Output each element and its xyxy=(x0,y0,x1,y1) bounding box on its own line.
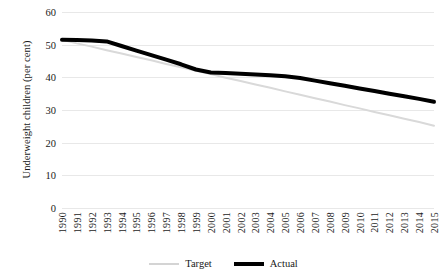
x-axis-tick-label: 1993 xyxy=(102,212,113,233)
legend-swatch-target-icon xyxy=(149,263,179,265)
x-axis-tick-label: 2004 xyxy=(265,212,276,233)
x-axis-tick-label: 1991 xyxy=(72,212,83,233)
x-axis-tick-label: 2000 xyxy=(206,212,217,233)
y-axis-tick-label: 50 xyxy=(26,39,56,50)
x-axis-tick-label: 1994 xyxy=(117,212,128,233)
x-axis-tick-label: 2002 xyxy=(236,212,247,233)
x-axis-tick-label: 2008 xyxy=(325,212,336,233)
x-axis-tick-label: 2001 xyxy=(221,212,232,233)
legend-label-actual: Actual xyxy=(270,258,298,269)
series-line-actual xyxy=(62,40,434,102)
legend-swatch-actual-icon xyxy=(234,262,264,266)
y-axis-tick-label: 30 xyxy=(26,105,56,116)
x-axis-tick-label: 1999 xyxy=(191,212,202,233)
x-axis-tick-label: 2007 xyxy=(310,212,321,233)
y-axis-tick-label: 40 xyxy=(26,72,56,83)
series-line-target xyxy=(62,40,434,126)
x-axis-tick-label: 2013 xyxy=(399,212,410,233)
x-axis-tick-label: 1995 xyxy=(131,212,142,233)
gridline xyxy=(62,208,434,209)
y-axis-tick-labels: 0102030405060 xyxy=(26,12,56,208)
legend-label-target: Target xyxy=(185,258,211,269)
x-axis-tick-label: 2014 xyxy=(414,212,425,233)
x-axis-tick-label: 2006 xyxy=(295,212,306,233)
x-axis-tick-label: 2009 xyxy=(340,212,351,233)
y-axis-tick-label: 60 xyxy=(26,7,56,18)
x-axis-tick-label: 2011 xyxy=(369,212,380,233)
x-axis-tick-label: 2003 xyxy=(250,212,261,233)
y-axis-tick-label: 10 xyxy=(26,170,56,181)
y-axis-tick-label: 20 xyxy=(26,137,56,148)
chart-container: Underweight children (per cent) 01020304… xyxy=(0,0,447,279)
x-axis-tick-label: 1998 xyxy=(176,212,187,233)
x-axis-tick-label: 2015 xyxy=(429,212,440,233)
x-axis-tick-label: 2010 xyxy=(355,212,366,233)
legend-entry-target: Target xyxy=(149,258,211,269)
x-axis-tick-label: 2005 xyxy=(280,212,291,233)
x-axis-tick-label: 2012 xyxy=(384,212,395,233)
x-axis-tick-label: 1996 xyxy=(146,212,157,233)
chart-legend: Target Actual xyxy=(0,258,447,269)
y-axis-tick-label: 0 xyxy=(26,203,56,214)
x-axis-tick-label: 1990 xyxy=(57,212,68,233)
plot-area xyxy=(62,12,434,208)
series-lines xyxy=(62,12,434,208)
x-axis-tick-label: 1997 xyxy=(161,212,172,233)
x-axis-tick-label: 1992 xyxy=(87,212,98,233)
legend-entry-actual: Actual xyxy=(234,258,298,269)
